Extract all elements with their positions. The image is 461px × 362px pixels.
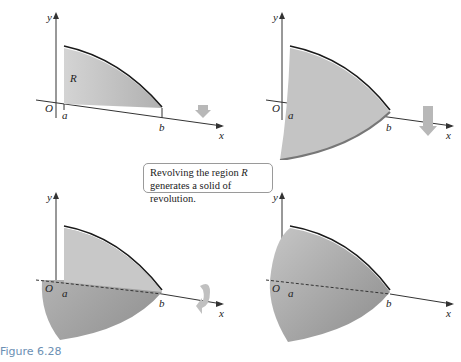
caption-text-1: Revolving the region — [150, 167, 241, 178]
y-label: y — [47, 192, 52, 203]
a-label: a — [288, 110, 294, 121]
solid-of-revolution-diagram — [230, 180, 461, 345]
a-label: a — [62, 110, 68, 121]
region-diagram — [0, 0, 230, 160]
y-label: y — [273, 192, 278, 203]
rotation-arrow-icon — [196, 284, 210, 314]
x-label: x — [219, 308, 224, 319]
origin-label: O — [45, 103, 53, 114]
caption-region-r: R — [241, 167, 247, 178]
a-label: a — [62, 288, 68, 299]
x-label: x — [446, 308, 451, 319]
b-label: b — [386, 298, 392, 309]
x-label: x — [446, 130, 451, 141]
rotation-arrow-icon — [195, 105, 211, 118]
y-label: y — [273, 12, 278, 23]
origin-label: O — [272, 283, 280, 294]
a-label: a — [288, 288, 294, 299]
swept-surface — [280, 48, 390, 160]
figure-label: Figure 6.28 — [0, 345, 62, 358]
partial-solid-diagram — [0, 180, 230, 345]
origin-label: O — [45, 283, 53, 294]
solid — [270, 228, 390, 342]
y-axis-arrow-icon — [53, 12, 59, 19]
panel-1: y x O a b R — [0, 0, 230, 160]
region-label: R — [70, 73, 77, 84]
x-label: x — [219, 130, 224, 141]
region-r — [64, 48, 162, 108]
b-label: b — [159, 298, 165, 309]
panel-2: y x O a b — [230, 0, 461, 160]
b-label: b — [159, 122, 165, 133]
partial-rotation-diagram — [230, 0, 461, 160]
b-label: b — [386, 122, 392, 133]
panel-4: y x O a b — [230, 180, 461, 345]
rotation-arrow-icon — [419, 106, 437, 136]
y-label: y — [47, 12, 52, 23]
panel-3: y x O a b — [0, 180, 230, 345]
origin-label: O — [272, 103, 280, 114]
